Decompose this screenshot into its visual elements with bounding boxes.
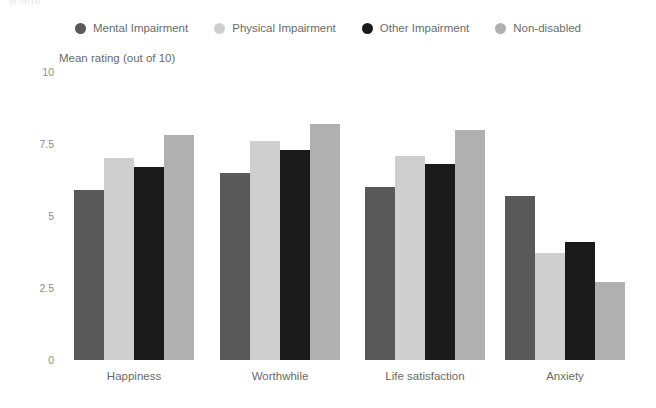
plot-area: 107.552.50 HappinessWorthwhileLife satis… xyxy=(0,0,656,408)
x-axis-labels: HappinessWorthwhileLife satisfactionAnxi… xyxy=(0,0,656,408)
x-axis-group-label: Life satisfaction xyxy=(385,370,464,382)
x-axis-group-label: Worthwhile xyxy=(252,370,309,382)
x-axis-group-label: Happiness xyxy=(107,370,161,382)
bar-chart: in 2019 Mental ImpairmentPhysical Impair… xyxy=(0,0,656,408)
x-axis-group-label: Anxiety xyxy=(546,370,584,382)
